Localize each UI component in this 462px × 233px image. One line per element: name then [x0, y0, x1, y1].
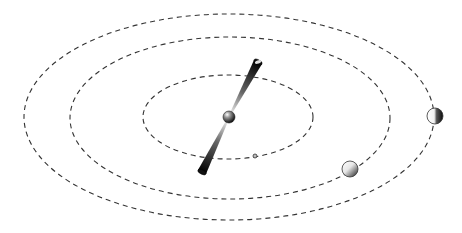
planet-middle-orbit	[342, 161, 358, 177]
central-sphere	[223, 111, 235, 123]
small-moon	[253, 154, 257, 158]
orbital-diagram	[0, 0, 462, 233]
celestial-bodies	[223, 108, 443, 177]
jet-bottom-cone	[198, 117, 230, 174]
planet-outer-orbit	[427, 108, 443, 124]
jet-top-cone	[228, 60, 262, 117]
orbital-diagram-canvas	[0, 0, 462, 233]
